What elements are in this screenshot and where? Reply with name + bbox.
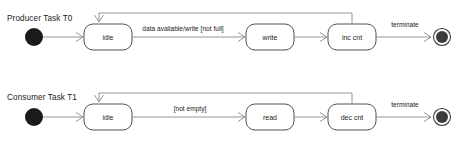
state-label-producer-inc-cnt: inc cnt	[342, 34, 362, 41]
lane-title-consumer: Consumer Task T1	[7, 93, 77, 102]
state-label-consumer-idle: idle	[103, 114, 114, 121]
final-state-core-producer	[436, 31, 448, 43]
final-state-core-consumer	[436, 111, 448, 123]
state-node-producer-inc-cnt: inc cnt	[328, 24, 376, 50]
state-label-producer-write: write	[262, 34, 278, 41]
transition-consumer-dec-to-idle-feedback	[99, 93, 352, 104]
state-node-consumer-dec-cnt: dec cnt	[328, 104, 376, 130]
state-node-consumer-read: read	[246, 104, 294, 130]
initial-state-icon-consumer	[25, 108, 43, 126]
state-node-producer-idle: idle	[84, 24, 132, 50]
state-label-consumer-read: read	[263, 114, 277, 121]
lane-consumer: Consumer Task T1 idle [not empty] read	[7, 93, 451, 130]
state-label-producer-idle: idle	[103, 34, 114, 41]
initial-state-icon-producer	[25, 28, 43, 46]
state-node-consumer-idle: idle	[84, 104, 132, 130]
lane-producer: Producer Task T0 idle data available/wri…	[7, 13, 451, 50]
transition-label-consumer-idle-to-read: [not empty]	[174, 105, 207, 113]
state-node-producer-write: write	[246, 24, 294, 50]
transition-producer-inc-to-idle-feedback	[99, 13, 352, 24]
transition-label-producer-terminate: terminate	[391, 21, 419, 28]
transition-label-producer-idle-to-write: data available/write [not full]	[142, 25, 224, 33]
lane-title-producer: Producer Task T0	[7, 14, 73, 23]
state-label-consumer-dec-cnt: dec cnt	[341, 114, 364, 121]
final-state-icon-consumer	[434, 109, 451, 126]
state-machine-diagram: Producer Task T0 idle data available/wri…	[0, 0, 467, 143]
transition-label-consumer-terminate: terminate	[391, 101, 419, 108]
diagram-canvas: Producer Task T0 idle data available/wri…	[0, 0, 467, 143]
final-state-icon-producer	[434, 29, 451, 46]
